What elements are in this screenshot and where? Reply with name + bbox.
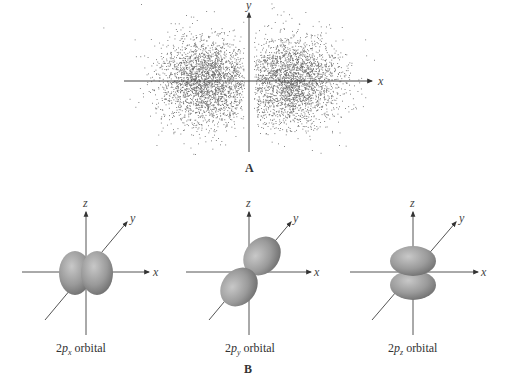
orbital-diagram: x y A x z y 2px orbital x z y 2py orbita… [0,0,508,381]
caption-2px: 2px orbital [56,341,107,357]
x-axis-label: x [377,74,384,88]
z-axis-label: z [82,196,88,210]
y-axis-label: y [129,211,136,225]
lobe-positive [81,251,113,295]
z-axis-label: z [409,196,415,210]
caption-2pz: 2pz orbital [388,341,438,357]
z-axis-label: z [245,196,251,210]
y-axis-label: y [458,211,465,225]
electron-density-dots [103,0,375,155]
y-axis-label: y [245,0,252,12]
lobe-positive [390,246,436,276]
orbital-2px: x z y 2px orbital [22,196,159,357]
y-axis-label: y [292,211,299,225]
orbital-2py: x z y 2py orbital B [186,196,320,376]
x-axis-label: x [313,265,320,279]
panel-label-a: A [245,161,254,175]
x-axis-label: x [480,265,487,279]
panel-a: x y A [103,0,384,175]
panel-label-b: B [244,362,252,376]
caption-2py: 2py orbital [225,341,276,357]
x-axis-label: x [152,265,159,279]
orbital-2pz: x z y 2pz orbital [350,196,487,357]
